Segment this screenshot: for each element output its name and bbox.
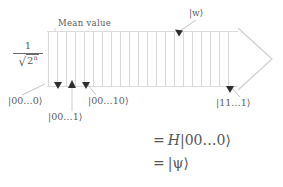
equals-sign-1: = — [153, 132, 168, 148]
psi-ket: |ψ⟩ — [168, 155, 189, 171]
marker-ket-w — [175, 30, 183, 37]
amplitude-numerator: 1 — [9, 40, 47, 52]
radical-glyph: √ — [18, 55, 26, 69]
state-label-first: |00…0⟩ — [8, 96, 43, 106]
marker-ket-000 — [54, 82, 62, 89]
hadamard-equation: =H|00…0⟩ — [153, 132, 231, 148]
equals-sign-2: = — [153, 155, 168, 171]
radical-body: 2n — [26, 54, 39, 66]
state-label-third: |00…10⟩ — [88, 96, 129, 106]
state-label-second: |00…1⟩ — [48, 112, 83, 122]
amplitude-bar-chart — [0, 0, 283, 187]
leader-ket-w — [180, 20, 196, 31]
state-label-last: |11…1⟩ — [216, 98, 251, 108]
amplitude-label: 1 √2n — [9, 40, 47, 68]
bar-group — [49, 32, 229, 86]
marked-state-label: |w⟩ — [189, 9, 203, 18]
amplitude-denominator: √2n — [9, 55, 47, 68]
sqrt-icon: √2n — [17, 55, 38, 68]
leader-ket-000 — [22, 84, 45, 95]
mean-value-label: Mean value — [58, 19, 111, 28]
ket-chevron — [238, 28, 272, 90]
diagram-canvas: 1 √2n Mean value |w⟩ |00…0⟩ |00…1⟩ |00…1… — [0, 0, 283, 187]
denominator-exponent: n — [33, 54, 37, 62]
hadamard-ket: |00…0⟩ — [180, 132, 231, 148]
hadamard-operator: H — [168, 132, 180, 148]
marker-ket-001 — [68, 80, 76, 88]
psi-equation: =|ψ⟩ — [153, 155, 189, 171]
